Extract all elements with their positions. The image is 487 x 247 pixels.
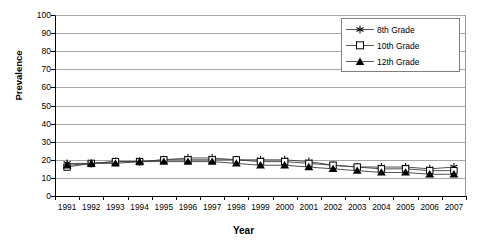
- x-tick-label: 1994: [128, 203, 152, 212]
- x-tick-mark: [55, 196, 56, 200]
- legend-item-10th-grade: 10th Grade: [346, 38, 459, 54]
- y-tick-mark: [51, 160, 55, 161]
- x-tick-label: 2002: [321, 203, 345, 212]
- x-tick-label: 1993: [103, 203, 127, 212]
- y-tick-label: 10: [17, 174, 51, 182]
- x-tick-mark: [466, 196, 467, 200]
- y-tick-label: 60: [17, 83, 51, 91]
- x-tick-mark: [321, 196, 322, 200]
- gridline: [56, 142, 465, 143]
- y-tick-mark: [51, 51, 55, 52]
- gridline: [56, 160, 465, 161]
- y-tick-mark: [51, 87, 55, 88]
- chart-container: Prevalence 1009080706050403020100 199119…: [0, 0, 487, 247]
- x-tick-label: 1992: [79, 203, 103, 212]
- gridline: [56, 124, 465, 125]
- legend: 8th Grade 10th Grade 12th Grade: [341, 18, 460, 72]
- y-tick-label: 40: [17, 120, 51, 128]
- x-tick-label: 2005: [393, 203, 417, 212]
- y-tick-mark: [51, 33, 55, 34]
- x-tick-mark: [200, 196, 201, 200]
- legend-label: 8th Grade: [374, 25, 415, 35]
- x-tick-mark: [103, 196, 104, 200]
- x-tick-label: 2000: [273, 203, 297, 212]
- gridline: [56, 178, 465, 179]
- y-tick-mark: [51, 106, 55, 107]
- y-tick-label: 70: [17, 65, 51, 73]
- y-tick-label: 20: [17, 156, 51, 164]
- x-tick-mark: [273, 196, 274, 200]
- x-tick-label: 2006: [418, 203, 442, 212]
- y-tick-mark: [51, 142, 55, 143]
- x-tick-mark: [393, 196, 394, 200]
- y-tick-label: 100: [17, 11, 51, 19]
- x-tick-mark: [128, 196, 129, 200]
- y-tick-mark: [51, 124, 55, 125]
- legend-item-8th-grade: 8th Grade: [346, 22, 459, 38]
- y-tick-label: 50: [17, 102, 51, 110]
- x-tick-label: 1991: [55, 203, 79, 212]
- y-tick-label: 80: [17, 47, 51, 55]
- y-tick-label: 0: [17, 192, 51, 200]
- legend-item-12th-grade: 12th Grade: [346, 54, 459, 70]
- y-tick-mark: [51, 15, 55, 16]
- y-tick-mark: [51, 178, 55, 179]
- x-tick-mark: [369, 196, 370, 200]
- x-tick-label: 1997: [200, 203, 224, 212]
- x-tick-mark: [79, 196, 80, 200]
- x-tick-mark: [248, 196, 249, 200]
- open-square-marker-icon: [346, 39, 374, 53]
- x-tick-label: 2003: [345, 203, 369, 212]
- x-tick-label: 2004: [369, 203, 393, 212]
- x-axis-title: Year: [0, 225, 487, 236]
- x-tick-label: 1999: [248, 203, 272, 212]
- x-tick-label: 1996: [176, 203, 200, 212]
- legend-label: 12th Grade: [374, 57, 420, 67]
- x-tick-label: 2001: [297, 203, 321, 212]
- x-axis-line: [55, 196, 466, 197]
- x-tick-label: 1995: [152, 203, 176, 212]
- x-tick-mark: [418, 196, 419, 200]
- x-tick-mark: [345, 196, 346, 200]
- x-tick-mark: [224, 196, 225, 200]
- y-tick-mark: [51, 69, 55, 70]
- x-tick-mark: [297, 196, 298, 200]
- y-tick-label: 90: [17, 29, 51, 37]
- legend-label: 10th Grade: [374, 41, 420, 51]
- y-tick-label: 30: [17, 138, 51, 146]
- asterisk-marker-icon: [346, 23, 374, 37]
- x-tick-label: 2007: [442, 203, 466, 212]
- gridline: [56, 15, 465, 16]
- gridline: [56, 87, 465, 88]
- filled-triangle-marker-icon: [346, 55, 374, 69]
- gridline: [56, 106, 465, 107]
- x-tick-mark: [176, 196, 177, 200]
- x-tick-label: 1998: [224, 203, 248, 212]
- x-tick-mark: [152, 196, 153, 200]
- x-tick-mark: [442, 196, 443, 200]
